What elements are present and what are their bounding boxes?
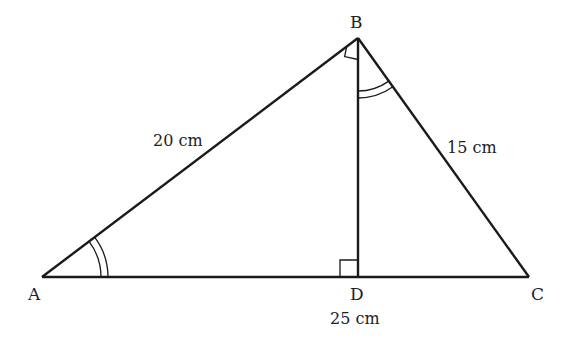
- angle-arc-a-inner-icon: [89, 241, 101, 277]
- vertex-label-c: C: [531, 284, 544, 304]
- length-label-ac: 25 cm: [330, 309, 380, 328]
- vertex-label-d: D: [350, 284, 364, 304]
- right-angle-d-icon: [340, 260, 358, 277]
- vertex-label-a: A: [27, 284, 41, 304]
- length-label-ab: 20 cm: [153, 131, 203, 150]
- side-bc: [358, 38, 529, 277]
- vertex-label-b: B: [350, 12, 363, 32]
- diagram-canvas: B A D C 20 cm 15 cm 25 cm: [0, 0, 561, 345]
- right-angle-b-icon: [345, 46, 358, 59]
- length-label-bc: 15 cm: [447, 138, 497, 157]
- angle-arc-b-inner-icon: [358, 81, 389, 91]
